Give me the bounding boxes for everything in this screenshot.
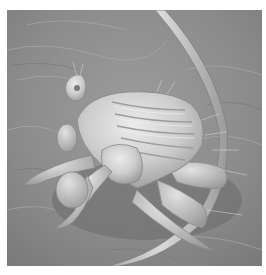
louse-eye [74,85,80,91]
sem-micrograph [7,10,262,266]
louse-illustration [7,10,262,266]
